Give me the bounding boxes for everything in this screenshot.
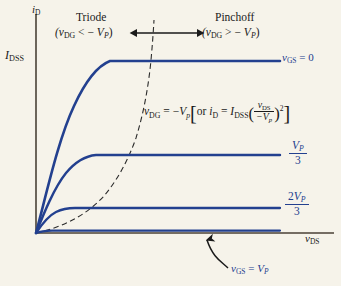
curve-vgs-vp-over-3: [36, 155, 280, 233]
pinchoff-cond-open: (v: [202, 26, 211, 38]
curve-label-two-vp-over-3: 2VP3: [285, 190, 309, 218]
triode-cond-open: (v: [55, 26, 64, 38]
pinchoff-cond-sub: DG: [211, 31, 222, 40]
eqn-equals: = −: [160, 105, 179, 117]
curve-label-vgs-equals-vp: vGS = VP: [231, 263, 268, 276]
c2-fraction: 2VP3: [285, 190, 309, 218]
idss-sub: DSS: [9, 54, 24, 63]
eqn-lhs-sub: DG: [149, 111, 160, 120]
c0-eq: = 0: [296, 51, 313, 63]
triode-cond-close: ): [109, 26, 113, 38]
pinchoff-locus-dashed-curve: [36, 20, 154, 233]
pinchoff-cond-rel: > −: [222, 26, 244, 38]
x-axis-label-sub: DS: [310, 237, 320, 246]
y-axis-tick-idss: IDSS: [5, 49, 24, 63]
eqn-or: or: [197, 105, 207, 117]
c2-denominator: 3: [285, 205, 309, 218]
y-axis-label: iD: [32, 4, 40, 17]
pinchoff-locus-equation: vDG = −Vp[or iD = IDSS(vDS−Vp)2]: [144, 100, 290, 123]
region-condition-triode: (vDG < − VP): [55, 27, 113, 40]
jfet-drain-characteristics-figure: iD IDSS vDS Triode (vDG < − VP) Pinchoff…: [0, 0, 341, 286]
triode-cond-var: V: [97, 26, 104, 38]
region-title-triode: Triode: [76, 12, 106, 24]
c2-numerator: 2VP: [285, 190, 309, 205]
c3-eq: =: [245, 262, 257, 274]
c2-num-var: V: [294, 190, 301, 202]
eqn-idss-sub: DSS: [234, 111, 248, 120]
pinchoff-cond-close: ): [256, 26, 260, 38]
c1-denominator: 3: [289, 154, 307, 167]
eqn-frac-num-sub: DS: [262, 104, 271, 111]
curve-label-vp-over-3: VP3: [289, 139, 307, 167]
c3-rhs-sub: P: [264, 267, 269, 276]
triode-cond-sub: DG: [64, 31, 75, 40]
eqn-frac-den-sub: p: [269, 116, 272, 123]
eqn-bracket-open: [: [190, 103, 197, 123]
c1-num-sub: P: [299, 144, 304, 153]
eqn-fraction: vDS−Vp: [254, 100, 274, 123]
curve-label-vgs-0: vGS = 0: [282, 52, 314, 65]
region-title-pinchoff: Pinchoff: [215, 12, 254, 24]
c1-numerator: VP: [289, 139, 307, 154]
eqn-frac-denominator: −Vp: [254, 112, 274, 123]
eqn-frac-den: −V: [256, 111, 269, 122]
c2-num-sub: P: [301, 195, 306, 204]
callout-arrow-vgs-vp: [207, 240, 228, 268]
triode-cond-rel: < −: [75, 26, 97, 38]
c3-rhs-var: V: [257, 262, 264, 274]
eqn-eq2: =: [218, 105, 230, 117]
x-axis-label: vDS: [305, 233, 319, 246]
eqn-bracket-close: ]: [284, 103, 291, 123]
c1-num-var: V: [292, 139, 299, 151]
region-condition-pinchoff: (vDG > − VP): [202, 27, 260, 40]
y-axis-label-sub: D: [35, 8, 40, 17]
c1-fraction: VP3: [289, 139, 307, 167]
pinchoff-cond-var: V: [244, 26, 251, 38]
